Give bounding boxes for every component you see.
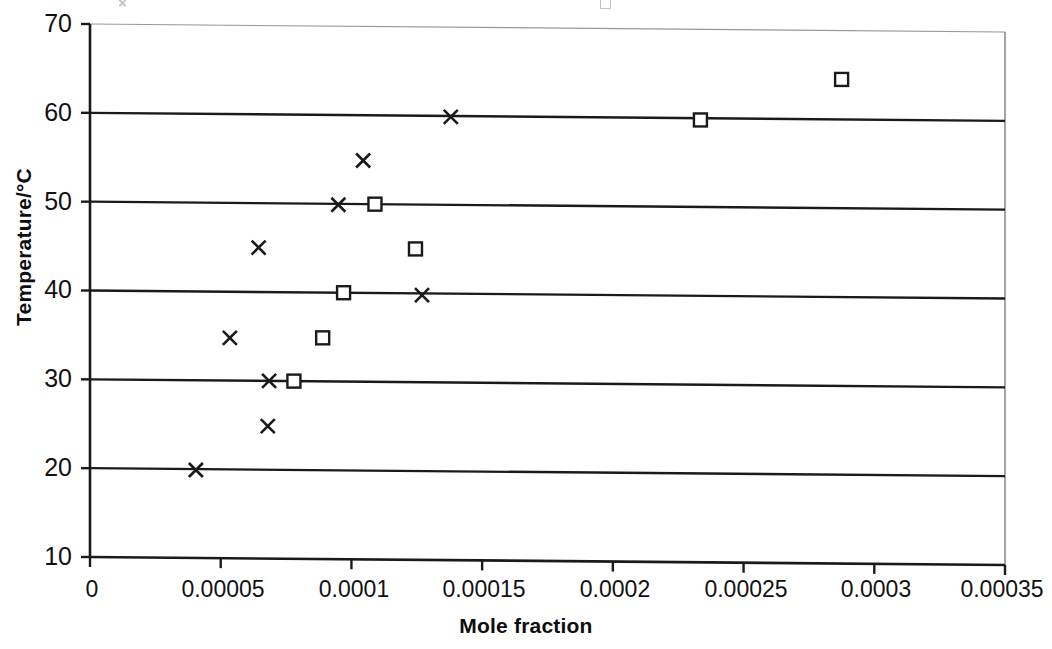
- plot-area: [0, 0, 1052, 649]
- chart-page: × 70 60 50 40 30 20 10 0 0.00005 0.0001 …: [0, 0, 1052, 649]
- data-points: [189, 73, 848, 477]
- axis-ticks: [81, 24, 1005, 575]
- gridlines: [90, 24, 1005, 476]
